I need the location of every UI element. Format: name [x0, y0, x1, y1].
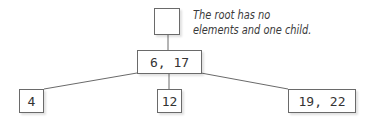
left-leaf-node: 4	[19, 89, 44, 113]
tree-diagram: The root has no elements and one child. …	[0, 0, 375, 121]
annotation-line-2: elements and one child.	[193, 23, 311, 38]
edge-middle-right	[201, 73, 288, 89]
root-annotation: The root has no elements and one child.	[193, 8, 311, 38]
root-node	[154, 8, 180, 35]
edge-middle-left	[44, 73, 137, 89]
middle-node: 6, 17	[137, 50, 202, 74]
annotation-line-1: The root has no	[193, 8, 311, 23]
right-leaf-node: 19, 22	[288, 89, 356, 113]
center-leaf-node: 12	[157, 89, 182, 113]
